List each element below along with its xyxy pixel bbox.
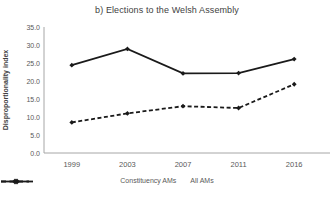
legend: Constituency AMs All AMs: [0, 177, 334, 184]
y-tick-label: 10.0: [26, 114, 40, 121]
x-tick-label: 1999: [63, 160, 80, 169]
y-tick-label: 35.0: [26, 24, 40, 31]
series-line-solid: [72, 49, 294, 73]
data-point-marker: [181, 104, 186, 109]
data-point-marker: [236, 71, 241, 76]
y-tick-label: 0.0: [30, 150, 40, 157]
legend-label-all-ams: All AMs: [190, 177, 213, 184]
plot-area: 0.05.010.015.020.025.030.035.01999200320…: [0, 0, 334, 203]
legend-label-constituency-ams: Constituency AMs: [120, 177, 176, 184]
y-tick-label: 5.0: [30, 132, 40, 139]
x-tick-label: 2007: [175, 160, 192, 169]
data-point-marker: [69, 120, 74, 125]
x-tick-label: 2016: [286, 160, 303, 169]
data-point-marker: [292, 57, 297, 62]
y-tick-label: 20.0: [26, 78, 40, 85]
x-tick-label: 2011: [231, 160, 247, 169]
y-tick-label: 25.0: [26, 60, 40, 67]
chart-figure: b) Elections to the Welsh Assembly Dispr…: [0, 0, 334, 203]
legend-item-all-ams: All AMs: [190, 177, 213, 184]
y-tick-label: 30.0: [26, 42, 40, 49]
series-line-dashed: [72, 84, 294, 122]
data-point-marker: [69, 63, 74, 68]
y-tick-label: 15.0: [26, 96, 40, 103]
x-tick-label: 2003: [119, 160, 136, 169]
data-point-marker: [292, 82, 297, 87]
legend-item-constituency-ams: Constituency AMs: [120, 177, 176, 184]
data-point-marker: [125, 111, 130, 116]
dashed-line-marker-icon: [0, 177, 30, 186]
